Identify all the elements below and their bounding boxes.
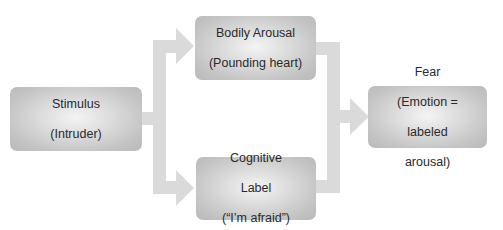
fear-subtitle-2: labeled	[397, 125, 458, 140]
cognitive-label-subtitle: (“I’m afraid”)	[222, 211, 290, 226]
fear-subtitle-1: (Emotion =	[397, 95, 458, 110]
stimulus-subtitle: (Intruder)	[50, 127, 101, 142]
cognitive-label-node: Cognitive Label (“I’m afraid”)	[196, 157, 316, 220]
fear-title: Fear	[397, 65, 458, 80]
stimulus-node: Stimulus (Intruder)	[10, 87, 142, 151]
bodily-arousal-node: Bodily Arousal (Pounding heart)	[195, 16, 316, 80]
left-trunk	[153, 40, 166, 194]
arrow-to-fear	[350, 98, 369, 135]
cognitive-label-title-2: Label	[222, 181, 290, 196]
stimulus-title: Stimulus	[50, 97, 101, 112]
cognitive-label-title: Cognitive	[222, 151, 290, 166]
right-trunk	[327, 42, 340, 193]
fear-node: Fear (Emotion = labeled arousal)	[368, 86, 487, 148]
arrow-to-bodily-arousal	[176, 28, 194, 64]
fear-subtitle-3: arousal)	[397, 155, 458, 170]
bodily-arousal-title: Bodily Arousal	[209, 26, 302, 41]
bodily-arousal-subtitle: (Pounding heart)	[209, 56, 302, 71]
arrow-to-cognitive-label	[176, 170, 194, 206]
